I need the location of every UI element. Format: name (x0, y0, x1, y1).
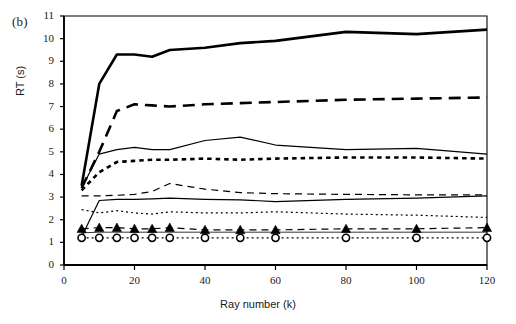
marker-triangle (112, 223, 121, 231)
marker-circle (149, 234, 156, 241)
y-tick-label: 3 (34, 190, 54, 202)
marker-circle (237, 234, 244, 241)
x-tick-label: 0 (49, 274, 79, 286)
marker-circle (96, 234, 103, 241)
marker-circle (113, 234, 120, 241)
x-tick-label: 80 (331, 274, 361, 286)
marker-triangle (165, 223, 174, 231)
y-tick-label: 2 (34, 213, 54, 225)
y-tick-label: 0 (34, 258, 54, 270)
y-tick-label: 4 (34, 167, 54, 179)
data-series-line-8 (82, 228, 487, 230)
marker-circle (342, 234, 349, 241)
marker-circle (201, 234, 208, 241)
y-tick-label: 1 (34, 235, 54, 247)
y-axis-label: RT (s) (14, 46, 26, 116)
data-series-line-9 (82, 232, 487, 233)
x-tick-label: 20 (120, 274, 150, 286)
y-tick-label: 6 (34, 122, 54, 134)
marker-circle (131, 234, 138, 241)
figure-panel-b: (b) RT (s) Ray number (k) 01234567891011… (0, 0, 516, 324)
x-axis-label: Ray number (k) (0, 298, 516, 310)
x-tick-label: 120 (472, 274, 502, 286)
x-tick-label: 60 (261, 274, 291, 286)
marker-circle (166, 234, 173, 241)
x-tick-label: 100 (402, 274, 432, 286)
marker-circle (413, 234, 420, 241)
y-tick-label: 8 (34, 77, 54, 89)
y-tick-label: 5 (34, 145, 54, 157)
marker-triangle (95, 223, 104, 231)
data-series-line-7 (82, 210, 487, 218)
y-tick-label: 9 (34, 54, 54, 66)
data-series-line-5 (82, 184, 487, 196)
data-series-line-6 (82, 196, 487, 237)
marker-circle (483, 234, 490, 241)
data-series-line-4 (82, 157, 487, 190)
y-tick-label: 7 (34, 100, 54, 112)
y-tick-label: 11 (34, 9, 54, 21)
marker-circle (272, 234, 279, 241)
data-series-line-1 (82, 30, 487, 186)
marker-circle (78, 234, 85, 241)
data-series-line-2 (82, 97, 487, 188)
data-series-line-3 (82, 137, 487, 188)
x-tick-label: 40 (190, 274, 220, 286)
panel-label: (b) (12, 14, 28, 30)
y-tick-label: 10 (34, 32, 54, 44)
